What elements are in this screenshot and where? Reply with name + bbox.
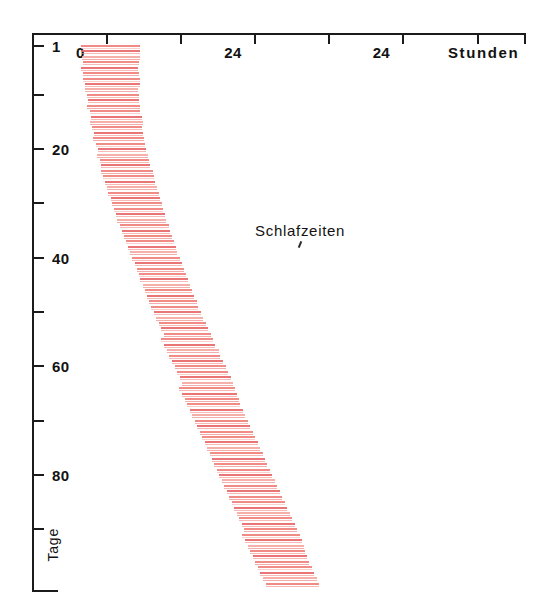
sleep-bar-day-16-stripe: [92, 129, 142, 130]
sleep-bar-day-72-stripe: [200, 434, 253, 435]
sleep-bar-day-6-stripe: [83, 75, 139, 76]
sleep-bar-day-48: [149, 300, 197, 302]
sleep-bar-day-18: [93, 137, 144, 139]
sleep-bar-day-37: [126, 240, 174, 242]
sleep-bar-day-7-stripe: [83, 81, 140, 82]
sleep-bar-day-99-stripe: [263, 580, 317, 581]
sleep-bar-day-66: [185, 398, 239, 400]
sleep-bar-day-62: [180, 376, 231, 378]
sleep-bar-day-85: [232, 501, 285, 503]
sleep-bar-day-23-stripe: [101, 167, 150, 168]
sleep-bar-day-74-stripe: [205, 444, 258, 445]
sleep-episode-bars: [0, 0, 551, 609]
sleep-bar-day-2: [82, 50, 140, 52]
sleep-bar-day-70: [195, 420, 248, 422]
sleep-bar-day-24: [101, 170, 153, 172]
sleep-bar-day-56-stripe: [164, 347, 215, 348]
sleep-bar-day-38: [128, 246, 176, 248]
sleep-bar-day-35-stripe: [122, 233, 170, 234]
sleep-bar-day-92: [245, 539, 302, 541]
sleep-bar-day-29-stripe: [111, 200, 160, 201]
sleep-bar-day-88: [239, 517, 292, 519]
sleep-bar-day-73-stripe: [202, 439, 255, 440]
sleep-bar-day-100: [266, 583, 319, 585]
sleep-bar-day-52-stripe: [159, 325, 206, 326]
sleep-bar-day-40-stripe: [132, 260, 180, 261]
sleep-bar-day-55-stripe: [161, 341, 213, 342]
sleep-bar-day-53: [161, 327, 208, 329]
sleep-bar-day-2-stripe: [82, 53, 140, 54]
sleep-bar-day-42-stripe: [137, 271, 184, 272]
sleep-bar-day-63-stripe: [182, 385, 233, 386]
sleep-bar-day-53-stripe: [161, 330, 208, 331]
sleep-bar-day-87-stripe: [237, 515, 290, 516]
sleep-bar-day-45-stripe: [143, 287, 190, 288]
sleep-bar-day-25-stripe: [103, 178, 154, 179]
sleep-bar-day-35: [122, 230, 170, 232]
sleep-bar-day-68: [190, 409, 243, 411]
sleep-bar-day-65-stripe: [182, 396, 237, 397]
sleep-bar-day-30-stripe: [112, 205, 162, 206]
sleep-bar-day-31: [114, 208, 163, 210]
sleep-bar-day-60: [175, 365, 226, 367]
sleep-bar-day-83-stripe: [227, 493, 280, 494]
sleep-bar-day-1-stripe: [81, 48, 140, 49]
sleep-bar-day-66-stripe: [185, 401, 239, 402]
sleep-bar-day-33-stripe: [117, 222, 166, 223]
sleep-bar-day-78: [214, 463, 267, 465]
sleep-bar-day-88-stripe: [239, 520, 292, 521]
sleep-bar-day-60-stripe: [175, 368, 226, 369]
sleep-bar-day-47-stripe: [147, 298, 194, 299]
sleep-bar-day-41: [135, 262, 182, 264]
sleep-bar-day-4-stripe: [83, 64, 139, 65]
sleep-bar-day-26: [105, 181, 155, 183]
sleep-bar-day-57: [167, 349, 219, 351]
sleep-bar-day-49: [151, 306, 198, 308]
sleep-bar-day-12: [87, 105, 140, 107]
sleep-bar-day-36-stripe: [124, 238, 172, 239]
sleep-bar-day-49-stripe: [151, 309, 198, 310]
sleep-bar-day-98-stripe: [260, 575, 314, 576]
sleep-bar-day-97: [258, 566, 312, 568]
sleep-bar-day-75-stripe: [207, 450, 260, 451]
sleep-bar-day-51-stripe: [156, 320, 203, 321]
sleep-bar-day-15-stripe: [90, 124, 143, 125]
sleep-bar-day-37-stripe: [126, 243, 174, 244]
sleep-bar-day-79: [217, 469, 270, 471]
sleep-bar-day-21: [97, 154, 148, 156]
sleep-bar-day-52: [159, 322, 206, 324]
sleep-bar-day-74: [205, 441, 258, 443]
sleep-bar-day-27-stripe: [107, 189, 157, 190]
sleep-bar-day-15: [90, 121, 143, 123]
sleep-bar-day-97-stripe: [258, 569, 312, 570]
sleep-bar-day-20: [98, 148, 146, 150]
sleep-bar-day-8: [85, 83, 140, 85]
sleep-bar-day-47: [147, 295, 194, 297]
sleep-bar-day-54: [164, 333, 211, 335]
sleep-bar-day-9-stripe: [85, 91, 138, 92]
sleep-bar-day-80: [219, 474, 272, 476]
sleep-bar-day-34: [120, 224, 169, 226]
sleep-bar-day-43-stripe: [139, 276, 186, 277]
sleep-bar-day-43: [139, 273, 186, 275]
sleep-bar-day-28-stripe: [108, 195, 159, 196]
sleep-bar-day-10-stripe: [87, 97, 139, 98]
sleep-bar-day-91: [242, 534, 300, 536]
sleep-bar-day-76-stripe: [210, 455, 263, 456]
sleep-bar-day-71: [197, 425, 250, 427]
sleep-bar-day-27: [107, 186, 157, 188]
sleep-bar-day-22-stripe: [100, 162, 149, 163]
sleep-bar-day-36: [124, 235, 172, 237]
sleep-bar-day-25: [103, 175, 154, 177]
sleep-bar-day-51: [156, 317, 203, 319]
sleep-bar-day-89: [242, 523, 295, 525]
sleep-bar-day-65: [182, 393, 237, 395]
sleep-bar-day-67-stripe: [187, 406, 240, 407]
sleep-bar-day-86: [234, 507, 287, 509]
sleep-bar-day-24-stripe: [101, 173, 153, 174]
sleep-bar-day-34-stripe: [120, 227, 169, 228]
sleep-bar-day-45: [143, 284, 190, 286]
sleep-bar-day-61-stripe: [177, 374, 228, 375]
sleep-bar-day-21-stripe: [97, 157, 148, 158]
sleep-bar-day-32-stripe: [116, 216, 165, 217]
